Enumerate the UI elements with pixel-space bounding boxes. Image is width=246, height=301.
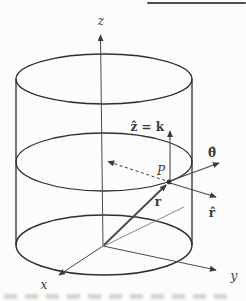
cylindrical-coordinates-diagram: z x y P r ẑ = k θ̂ r̂	[0, 0, 246, 301]
cylinder-top-ellipse	[16, 54, 192, 104]
cylinder-middle-ellipse	[16, 133, 192, 191]
point-p-dot	[167, 180, 172, 185]
cylinder-outline	[16, 54, 192, 275]
position-vector-label: r	[155, 195, 162, 209]
unit-vectors	[170, 131, 219, 197]
z-axis-label: z	[97, 14, 105, 28]
x-axis-line	[59, 246, 103, 275]
cropped-caption-remnant	[4, 294, 230, 299]
r-unit-vector-label: r̂	[209, 206, 216, 220]
y-axis-label: y	[230, 269, 238, 283]
z-unit-vector-label: ẑ = k	[130, 120, 164, 134]
theta-unit-vector-label: θ̂	[208, 146, 216, 160]
point-p-label: P	[156, 164, 166, 178]
r-unit-vector-arrow	[170, 183, 216, 197]
textbook-figure-page: z x y P r ẑ = k θ̂ r̂	[0, 0, 246, 301]
x-axis-label: x	[41, 278, 48, 292]
y-axis-line	[103, 246, 216, 270]
theta-unit-vector-arrow	[170, 163, 219, 181]
